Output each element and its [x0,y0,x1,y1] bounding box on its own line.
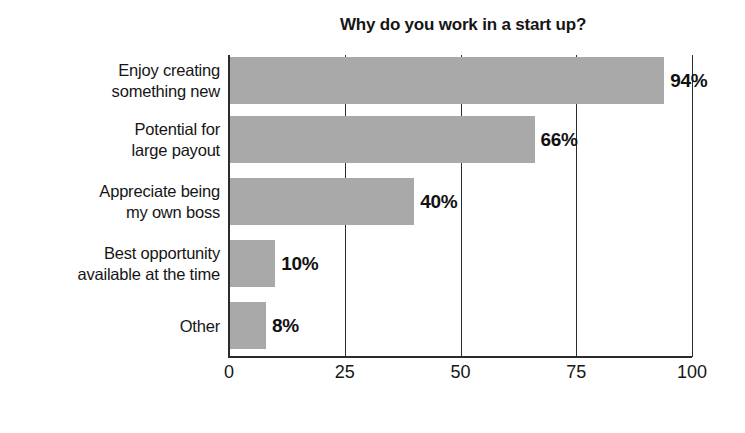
x-tick-label-25: 25 [335,362,355,383]
bar-chart: Why do you work in a start up? Enjoy cre… [0,0,745,433]
category-label-text: Potential forlarge payout [12,119,220,161]
category-label: Other [12,302,228,349]
x-axis-tick-labels: 0255075100 [229,362,692,392]
category-label: Enjoy creatingsomething new [12,57,228,104]
category-axis-labels: Enjoy creatingsomething newPotential for… [0,55,228,357]
bar[interactable] [229,116,535,163]
bar-value-label: 10% [281,253,318,275]
category-label-text: Appreciate beingmy own boss [12,181,220,223]
category-label-text: Enjoy creatingsomething new [12,60,220,102]
category-label-line: Potential for [12,119,220,140]
bar-value-label: 66% [541,129,578,151]
bar-row: 66% [229,116,692,163]
bar[interactable] [229,240,275,287]
bar-value-label: 40% [420,191,457,213]
y-axis-line [228,55,230,358]
bar[interactable] [229,178,414,225]
bar-row: 40% [229,178,692,225]
category-label: Appreciate beingmy own boss [12,178,228,225]
bar[interactable] [229,57,664,104]
category-label-line: my own boss [12,202,220,223]
category-label: Best opportunityavailable at the time [12,240,228,287]
category-label-text: Other [12,315,220,336]
category-label-line: Appreciate being [12,181,220,202]
category-label-line: Enjoy creating [12,60,220,81]
x-tick-label-0: 0 [224,362,234,383]
bar-value-label: 94% [670,70,707,92]
bar-value-label: 8% [272,315,299,337]
plot-area: 94%66%40%10%8% [229,55,692,357]
category-label: Potential forlarge payout [12,116,228,163]
category-label-line: something new [12,81,220,102]
bar-row: 8% [229,302,692,349]
category-label-text: Best opportunityavailable at the time [12,243,220,285]
category-label-line: Other [12,315,220,336]
x-axis-line [228,356,692,358]
x-tick-label-75: 75 [566,362,586,383]
chart-title: Why do you work in a start up? [228,15,698,35]
x-tick-label-50: 50 [450,362,470,383]
x-tick-label-100: 100 [677,362,707,383]
bar[interactable] [229,302,266,349]
bar-row: 94% [229,57,692,104]
gridline-100 [692,55,693,357]
bar-row: 10% [229,240,692,287]
category-label-line: large payout [12,140,220,161]
category-label-line: Best opportunity [12,243,220,264]
category-label-line: available at the time [12,264,220,285]
